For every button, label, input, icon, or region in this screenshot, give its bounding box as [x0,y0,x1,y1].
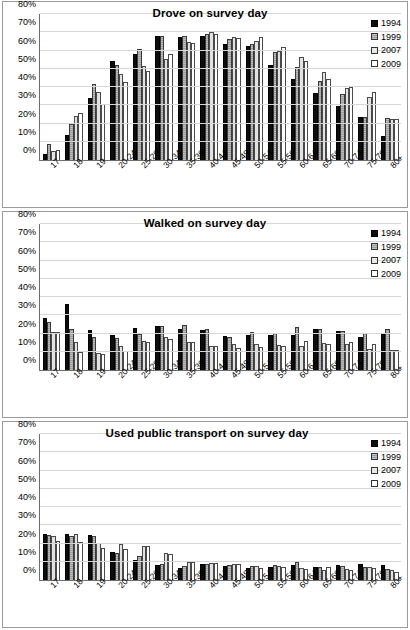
legend-label: 1994 [381,228,401,238]
x-axis-label-cell: 19 [84,371,107,413]
gridline [40,488,401,489]
legend-swatch-icon [371,480,378,487]
legend-label: 2009 [381,59,401,69]
legend-label: 1999 [381,452,401,462]
y-axis-tick-label: 60% [18,36,40,46]
y-axis-tick-label: 80% [18,0,40,9]
gridline [40,241,401,242]
bar-group [198,434,221,580]
bar-group [85,14,108,160]
x-axis-label-cell: 17 [39,161,62,203]
legend-swatch-icon [371,20,378,27]
x-axis-label-cell: 50-54 [243,161,266,203]
gridline [40,561,401,562]
legend-swatch-icon [371,47,378,54]
legend-label: 1994 [381,438,401,448]
chart-legend: 1994199920072009 [371,438,401,489]
y-axis-tick-label: 0% [23,565,40,575]
bar-group [153,14,176,160]
chart-panel-drove: Drove on survey day 1994199920072009 0%1… [2,1,408,208]
x-axis-label-cell: 20-24 [107,161,130,203]
x-axis-label-cell: 80+ [378,581,401,623]
legend-label: 1994 [381,18,401,28]
gridline [40,68,401,69]
x-axis-label-cell: 30-34 [152,581,175,623]
y-axis-tick-label: 20% [18,529,40,539]
legend-item-1994: 1994 [371,18,401,28]
bar-groups [40,14,401,160]
legend-item-2007: 2007 [371,465,401,475]
x-axis-label-cell: 18 [62,371,85,413]
y-axis-tick-label: 10% [18,127,40,137]
bar-group [266,224,289,370]
plot-area: 0%10%20%30%40%50%60%70%80% [39,14,401,161]
y-axis-tick-label: 50% [18,474,40,484]
x-axis-label-cell: 70-74 [333,161,356,203]
legend-label: 1999 [381,242,401,252]
figure-container: Drove on survey day 1994199920072009 0%1… [0,0,410,630]
x-axis-label-cell: 40-44 [197,161,220,203]
bar-group [108,14,131,160]
x-axis-label-cell: 30-34 [152,371,175,413]
bar-group [130,14,153,160]
legend-label: 1999 [381,32,401,42]
bar-group [175,14,198,160]
legend-swatch-icon [371,270,378,277]
x-axis-label-cell: 35-39 [175,161,198,203]
gridline [40,123,401,124]
legend-item-2009: 2009 [371,479,401,489]
bar-group [130,434,153,580]
bar-2009-19 [101,104,105,160]
bar-group [243,14,266,160]
legend-label: 2007 [381,255,401,265]
x-axis-label-cell: 60-64 [288,581,311,623]
x-axis-label-cell: 65-69 [311,161,334,203]
x-axis-label-cell: 65-69 [311,371,334,413]
gridline [40,141,401,142]
bar-group [243,224,266,370]
legend-swatch-icon [371,33,378,40]
y-axis-tick-label: 70% [18,437,40,447]
x-axis-label-cell: 75-79 [356,161,379,203]
x-axis-label-cell: 17 [39,581,62,623]
legend-label: 2009 [381,269,401,279]
bar-group [221,224,244,370]
x-axis-label-cell: 35-39 [175,371,198,413]
y-axis-tick-label: 40% [18,72,40,82]
y-axis-tick-label: 10% [18,547,40,557]
bar-group [85,224,108,370]
x-axis-label-cell: 19 [84,161,107,203]
x-axis-label-cell: 75-79 [356,581,379,623]
x-axis-label-cell: 40-44 [197,371,220,413]
x-axis-label-cell: 17 [39,371,62,413]
y-axis-tick-label: 40% [18,282,40,292]
bar-group [311,14,334,160]
bar-groups [40,434,401,580]
gridline [40,278,401,279]
gridline [40,543,401,544]
bar-2009-18 [78,113,82,160]
bar-group [288,434,311,580]
x-axis-label-cell: 60-64 [288,161,311,203]
bar-2009-65-69 [326,79,330,160]
chart-legend: 1994199920072009 [371,18,401,69]
bar-group [108,224,131,370]
x-axis-label-cell: 45-49 [220,371,243,413]
gridline [40,296,401,297]
legend-item-1999: 1999 [371,452,401,462]
bar-group [288,224,311,370]
gridline [40,451,401,452]
bar-group [130,224,153,370]
legend-item-1999: 1999 [371,32,401,42]
y-axis-tick-label: 30% [18,90,40,100]
legend-item-2007: 2007 [371,45,401,55]
x-axis-label-cell: 55-59 [265,161,288,203]
x-axis-label-cell: 25-29 [130,161,153,203]
bar-2009-20-24 [123,82,127,160]
bar-group [333,434,356,580]
bar-group [288,14,311,160]
bar-group [40,434,63,580]
gridline [40,333,401,334]
legend-swatch-icon [371,60,378,67]
gridline [40,31,401,32]
